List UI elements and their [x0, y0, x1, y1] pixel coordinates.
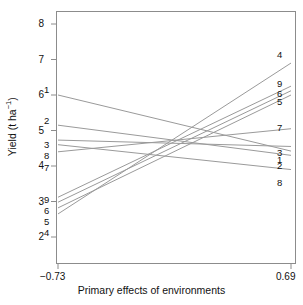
series-label-right-5: 5	[277, 97, 282, 107]
series-label-right-7: 7	[277, 123, 282, 133]
x-axis-tick-label-1: 0.69	[276, 272, 295, 282]
series-line-9	[58, 86, 291, 197]
series-line-6	[58, 91, 291, 202]
series-label-right-4: 4	[277, 50, 282, 60]
y-axis-title-main: Yield (t ha	[6, 109, 18, 156]
series-label-right-8: 8	[277, 178, 282, 188]
y-axis-title-superscript: −1	[4, 101, 13, 110]
series-label-left-8: 8	[44, 151, 49, 161]
y-axis-tick-label-3: 3	[28, 197, 44, 207]
series-label-left-9: 9	[44, 195, 49, 205]
series-label-left-1: 1	[44, 85, 49, 95]
y-axis-tick-label-5: 5	[28, 126, 44, 136]
series-label-left-2: 2	[44, 116, 49, 126]
y-axis-tick-label-8: 8	[28, 19, 44, 29]
series-label-left-4: 4	[44, 228, 49, 238]
series-line-3	[58, 140, 291, 146]
axis-ticks	[51, 24, 291, 269]
x-axis-tick-label-0: −0.73	[40, 272, 65, 282]
series-line-8	[58, 145, 291, 170]
series-lines	[58, 63, 291, 214]
series-line-1	[58, 95, 291, 151]
series-label-left-7: 7	[44, 163, 49, 173]
series-label-left-5: 5	[44, 217, 49, 227]
series-label-right-2: 2	[277, 161, 282, 171]
series-label-left-6: 6	[44, 206, 49, 216]
y-axis-tick-label-2: 2	[28, 232, 44, 242]
y-axis-tick-label-4: 4	[28, 161, 44, 171]
y-axis-tick-label-7: 7	[28, 55, 44, 65]
series-label-left-3: 3	[44, 140, 49, 150]
figure-canvas: 2345678 −0.730.69 123879654496573128 Yie…	[0, 0, 303, 305]
y-axis-title: Yield (t ha−1)	[4, 62, 18, 192]
y-axis-tick-label-6: 6	[28, 90, 44, 100]
y-axis-title-tail: )	[6, 97, 18, 101]
series-line-5	[58, 95, 291, 208]
x-axis-title: Primary effects of environments	[0, 284, 303, 296]
